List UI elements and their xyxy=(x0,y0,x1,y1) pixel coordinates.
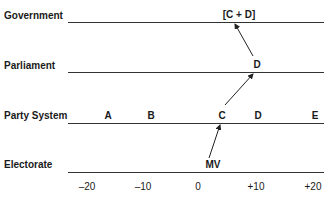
arrow-mv-to-c xyxy=(209,125,220,158)
arrow-d-to-government xyxy=(235,24,253,56)
arrows xyxy=(0,0,335,206)
arrow-c-to-parliament-d xyxy=(225,74,253,105)
